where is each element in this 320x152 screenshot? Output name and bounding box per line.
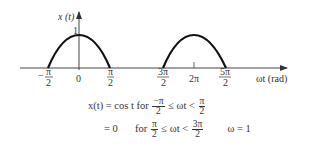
equation-1-lhs: x(t) = cos t for [88, 100, 149, 111]
svg-text:2: 2 [161, 77, 166, 88]
svg-text:2: 2 [108, 77, 113, 88]
svg-text:2: 2 [223, 77, 228, 88]
svg-text:3π: 3π [158, 66, 168, 77]
tick-zero: 0 [76, 73, 81, 84]
svg-text:2π: 2π [189, 73, 199, 84]
peak-label: 1 [73, 25, 78, 36]
y-axis-label: x (t) [57, 11, 75, 23]
equation-2-lhs: = 0 [104, 123, 118, 134]
fraction: π2 [151, 120, 158, 139]
svg-text:5π: 5π [220, 66, 230, 77]
svg-text:π: π [108, 66, 113, 77]
tick-three-half-pi: 3π 2 [157, 66, 169, 88]
tick-half-pi: π 2 [107, 66, 114, 88]
equation-2-for: for [135, 123, 147, 134]
tick-five-half-pi: 5π 2 [219, 66, 231, 88]
svg-text:−: − [38, 70, 44, 81]
svg-text:0: 0 [76, 73, 81, 84]
equation-line-2: = 0 for π2 ≤ ωt < 3π2 ω = 1 [104, 120, 251, 139]
tick-neg-half-pi: − π 2 [38, 66, 53, 88]
tick-two-pi: 2π [189, 73, 199, 84]
svg-text:π: π [46, 66, 51, 77]
cosine-pulse-2 [163, 35, 226, 68]
fraction: 3π2 [192, 120, 204, 139]
equation-2-mid: ≤ ωt < [161, 123, 188, 134]
fraction: π2 [199, 97, 206, 116]
fraction: −π2 [152, 97, 164, 116]
equation-line-1: x(t) = cos t for −π2 ≤ ωt < π2 [88, 97, 206, 116]
svg-text:2: 2 [46, 77, 51, 88]
x-axis-label: ωt (rad) [256, 73, 287, 85]
equation-1-mid: ≤ ωt < [168, 100, 195, 111]
omega-value: ω = 1 [228, 123, 251, 134]
